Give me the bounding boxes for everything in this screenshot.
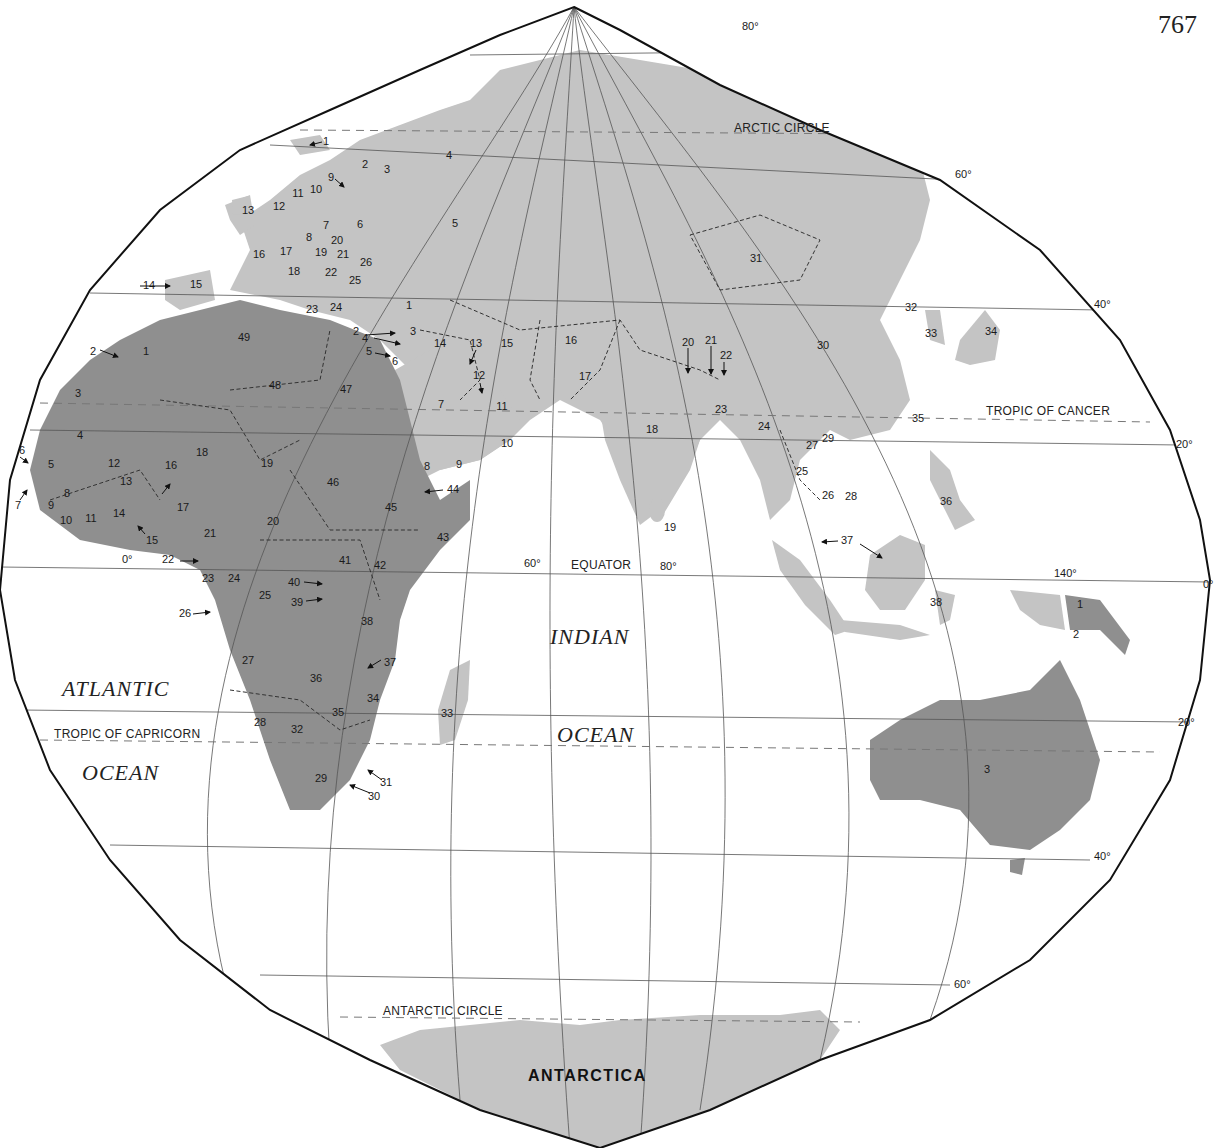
svg-text:3: 3 bbox=[384, 163, 390, 175]
svg-text:15: 15 bbox=[146, 534, 158, 546]
svg-text:20: 20 bbox=[267, 515, 279, 527]
svg-text:2: 2 bbox=[1073, 628, 1079, 640]
arctic-circle-label: ARCTIC CIRCLE bbox=[734, 121, 830, 135]
svg-text:30: 30 bbox=[817, 339, 829, 351]
svg-text:14: 14 bbox=[143, 279, 155, 291]
svg-text:15: 15 bbox=[190, 278, 202, 290]
svg-text:5: 5 bbox=[48, 458, 54, 470]
svg-text:43: 43 bbox=[437, 531, 449, 543]
svg-text:4: 4 bbox=[77, 429, 83, 441]
indian-ocean-label-1: INDIAN bbox=[549, 624, 630, 649]
svg-text:19: 19 bbox=[664, 521, 676, 533]
svg-text:8: 8 bbox=[306, 231, 312, 243]
svg-text:38: 38 bbox=[361, 615, 373, 627]
lat-40n-label: 40° bbox=[1094, 298, 1111, 310]
svg-text:29: 29 bbox=[315, 772, 327, 784]
svg-text:21: 21 bbox=[204, 527, 216, 539]
svg-text:34: 34 bbox=[367, 692, 379, 704]
tasmania-landmass bbox=[1010, 858, 1025, 875]
svg-text:33: 33 bbox=[441, 707, 453, 719]
svg-text:40: 40 bbox=[288, 576, 300, 588]
svg-text:9: 9 bbox=[456, 458, 462, 470]
svg-text:14: 14 bbox=[434, 337, 446, 349]
svg-text:1: 1 bbox=[143, 345, 149, 357]
svg-text:13: 13 bbox=[242, 204, 254, 216]
sumatra-landmass bbox=[772, 540, 850, 635]
svg-text:34: 34 bbox=[985, 325, 997, 337]
svg-text:26: 26 bbox=[822, 489, 834, 501]
indian-ocean-label-2: OCEAN bbox=[557, 722, 634, 747]
sri-lanka-landmass bbox=[649, 498, 665, 522]
svg-text:12: 12 bbox=[273, 200, 285, 212]
atlantic-ocean-label-1: ATLANTIC bbox=[60, 676, 169, 701]
svg-text:25: 25 bbox=[796, 465, 808, 477]
svg-text:35: 35 bbox=[332, 706, 344, 718]
lat-20n-label: 20° bbox=[1176, 438, 1193, 450]
svg-text:19: 19 bbox=[315, 246, 327, 258]
svg-text:49: 49 bbox=[238, 331, 250, 343]
svg-text:31: 31 bbox=[750, 252, 762, 264]
svg-text:38: 38 bbox=[930, 596, 942, 608]
svg-text:46: 46 bbox=[327, 476, 339, 488]
svg-text:23: 23 bbox=[202, 572, 214, 584]
svg-text:2: 2 bbox=[90, 345, 96, 357]
svg-text:2: 2 bbox=[362, 158, 368, 170]
svg-text:32: 32 bbox=[905, 301, 917, 313]
svg-text:8: 8 bbox=[64, 487, 70, 499]
tropic-of-cancer-label: TROPIC OF CANCER bbox=[986, 404, 1110, 418]
svg-text:32: 32 bbox=[291, 723, 303, 735]
svg-text:29: 29 bbox=[822, 432, 834, 444]
lat-0-label: 0° bbox=[1203, 578, 1214, 590]
lon-60-label: 60° bbox=[524, 557, 541, 569]
svg-text:11: 11 bbox=[292, 187, 303, 199]
svg-text:22: 22 bbox=[720, 349, 732, 361]
svg-text:3: 3 bbox=[410, 325, 416, 337]
svg-text:24: 24 bbox=[758, 420, 770, 432]
svg-text:44: 44 bbox=[447, 483, 459, 495]
svg-text:10: 10 bbox=[60, 514, 72, 526]
antarctica-label: ANTARCTICA bbox=[528, 1067, 647, 1084]
svg-text:7: 7 bbox=[438, 398, 444, 410]
papua-new-guinea-landmass bbox=[1065, 595, 1130, 655]
svg-text:42: 42 bbox=[374, 559, 386, 571]
svg-text:45: 45 bbox=[385, 501, 397, 513]
svg-text:15: 15 bbox=[501, 337, 513, 349]
svg-text:30: 30 bbox=[368, 790, 380, 802]
svg-text:10: 10 bbox=[310, 183, 322, 195]
svg-text:16: 16 bbox=[565, 334, 577, 346]
svg-text:28: 28 bbox=[254, 716, 266, 728]
svg-text:12: 12 bbox=[473, 369, 485, 381]
svg-text:10: 10 bbox=[501, 437, 513, 449]
svg-text:31: 31 bbox=[380, 776, 392, 788]
svg-text:17: 17 bbox=[177, 501, 189, 513]
svg-text:8: 8 bbox=[424, 460, 430, 472]
lon-0-label: 0° bbox=[122, 553, 133, 565]
svg-text:9: 9 bbox=[328, 171, 334, 183]
svg-text:4: 4 bbox=[362, 332, 368, 344]
equator-label: EQUATOR bbox=[571, 558, 631, 572]
svg-text:4: 4 bbox=[446, 149, 452, 161]
svg-text:3: 3 bbox=[984, 763, 990, 775]
borneo-landmass bbox=[865, 535, 925, 610]
svg-text:27: 27 bbox=[242, 654, 254, 666]
svg-text:35: 35 bbox=[912, 412, 924, 424]
svg-text:25: 25 bbox=[259, 589, 271, 601]
svg-text:9: 9 bbox=[48, 499, 54, 511]
svg-text:12: 12 bbox=[108, 457, 120, 469]
svg-text:5: 5 bbox=[452, 217, 458, 229]
svg-text:21: 21 bbox=[705, 334, 717, 346]
lon-80-label: 80° bbox=[660, 560, 677, 572]
lon-140-label: 140° bbox=[1054, 567, 1077, 579]
svg-text:47: 47 bbox=[340, 383, 352, 395]
svg-text:17: 17 bbox=[280, 245, 292, 257]
svg-text:28: 28 bbox=[845, 490, 857, 502]
japan-landmass bbox=[955, 310, 1000, 365]
new-guinea-west-landmass bbox=[1010, 590, 1065, 630]
svg-text:16: 16 bbox=[253, 248, 265, 260]
svg-text:48: 48 bbox=[269, 379, 281, 391]
svg-text:23: 23 bbox=[715, 403, 727, 415]
svg-text:1: 1 bbox=[1077, 598, 1083, 610]
svg-text:2: 2 bbox=[353, 325, 359, 337]
svg-text:18: 18 bbox=[196, 446, 208, 458]
svg-text:3: 3 bbox=[75, 387, 81, 399]
